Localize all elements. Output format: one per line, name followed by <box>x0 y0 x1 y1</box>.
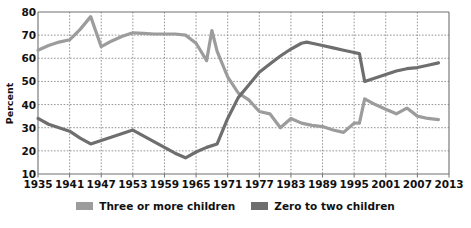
legend-swatch-icon <box>76 202 93 210</box>
line-chart: Percent 8070605040302010 193519411947195… <box>0 0 471 228</box>
legend-swatch-icon <box>251 202 268 210</box>
plot-area <box>0 0 471 228</box>
chart-legend: Three or more childrenZero to two childr… <box>0 200 471 212</box>
legend-item[interactable]: Three or more children <box>76 200 235 212</box>
legend-label: Zero to two children <box>274 200 394 212</box>
series-line <box>38 42 438 158</box>
legend-label: Three or more children <box>99 200 235 212</box>
legend-item[interactable]: Zero to two children <box>251 200 394 212</box>
series-line <box>38 17 438 133</box>
